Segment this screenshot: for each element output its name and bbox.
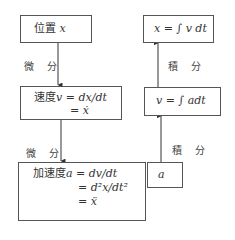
acceleration-text: 加速度a = dv/dt <box>33 167 117 180</box>
acceleration-label: 加速度 <box>33 167 66 180</box>
velocity-eq1: v = dx/dt <box>56 91 107 104</box>
velocity-text: 速度v = dx/dt <box>34 91 107 104</box>
integral-acceleration-box <box>147 162 183 188</box>
differentiate-label-1: 微 分 <box>24 58 62 73</box>
integral-velocity-text: v = ∫ adt <box>156 94 206 107</box>
position-text: 位置 x <box>34 22 66 35</box>
velocity-eq2: = ẋ <box>70 104 89 117</box>
integrate-label-1: 積 分 <box>168 58 206 73</box>
position-label: 位置 <box>34 22 56 35</box>
integrate-label-2: 積 分 <box>172 142 210 157</box>
acceleration-eq2: = d²x/dt² <box>78 181 128 194</box>
velocity-label: 速度 <box>34 91 56 104</box>
position-symbol: x <box>60 22 66 35</box>
acceleration-eq1: a = dv/dt <box>66 167 117 180</box>
differentiate-label-2: 微 分 <box>26 145 64 160</box>
acceleration-eq3: = ẍ <box>78 195 97 208</box>
integral-position-text: x = ∫ v dt <box>154 22 207 35</box>
integral-acceleration-text: a <box>158 168 165 181</box>
